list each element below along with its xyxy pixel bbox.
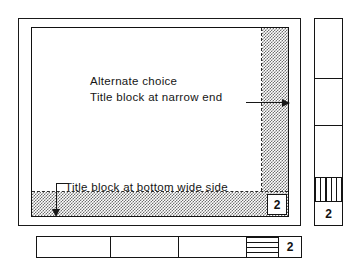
horizontal-title-block-detail: 2 — [36, 236, 302, 258]
horizontal-strip-zone-number: 2 — [279, 237, 301, 257]
horizontal-strip-cell-3 — [179, 237, 247, 257]
vertical-title-block-detail: 2 — [314, 18, 343, 226]
annotation-alternate-choice: Alternate choice — [90, 74, 177, 89]
horizontal-strip-cell-2 — [111, 237, 179, 257]
vertical-strip-zone-number: 2 — [315, 202, 342, 225]
vertical-strip-hatch-cell — [315, 178, 342, 202]
horizontal-strip-cell-1 — [37, 237, 111, 257]
horizontal-strip-hatch-cell — [247, 237, 279, 257]
leader-line-bottom-wide-arrow — [56, 183, 57, 211]
vertical-strip-cell-2 — [315, 79, 342, 126]
title-block-band-narrow-end — [262, 28, 288, 216]
title-block-band-bottom-wide — [32, 192, 288, 216]
vertical-strip-cell-1 — [315, 19, 342, 79]
vertical-strip-cell-3 — [315, 126, 342, 178]
narrow-end-dashed-boundary — [261, 28, 262, 216]
annotation-title-block-narrow-end: Title block at narrow end — [90, 90, 222, 105]
leader-line-bottom-wide-horizontal — [56, 183, 68, 184]
sheet-zone-number-box: 2 — [267, 194, 287, 215]
annotation-title-block-bottom-wide: Title block at bottom wide side — [65, 180, 228, 195]
technical-drawing-figure: 2 Alternate choice Title block at narrow… — [0, 0, 355, 263]
leader-line-narrow-end-arrow — [246, 102, 289, 103]
